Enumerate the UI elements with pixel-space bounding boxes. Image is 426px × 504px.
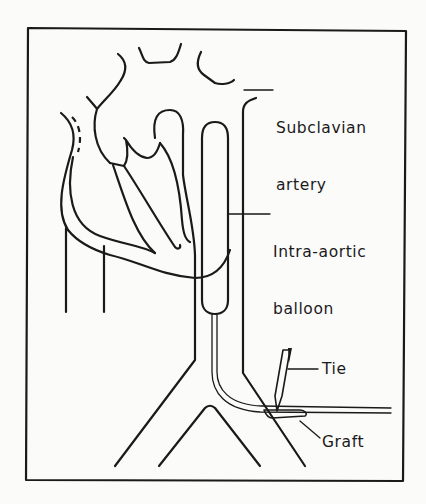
label-subclavian: Subclavian artery: [276, 81, 367, 214]
intra-aortic-balloon: [202, 122, 228, 314]
aorta-bifurcation: [159, 406, 260, 466]
label-subclavian-line1: Subclavian: [276, 119, 367, 138]
tie: [275, 350, 290, 411]
atrium-outline: [154, 110, 195, 255]
label-balloon: Intra-aortic balloon: [273, 205, 366, 338]
label-tie: Tie: [322, 360, 347, 379]
ventricle-wall: [113, 165, 155, 253]
label-subclavian-line2: artery: [276, 176, 367, 195]
label-balloon-line1: Intra-aortic: [273, 243, 366, 262]
label-balloon-line2: balloon: [273, 300, 366, 319]
septum: [124, 166, 180, 248]
branch-vessel: [118, 54, 125, 80]
heart-outline: [87, 80, 121, 163]
label-graft: Graft: [322, 433, 364, 452]
valve-line: [110, 138, 160, 166]
heart-lower-outline: [68, 230, 230, 278]
branch-vessel: [139, 44, 181, 63]
branch-vessel: [198, 52, 234, 84]
leader-graft: [300, 421, 320, 438]
